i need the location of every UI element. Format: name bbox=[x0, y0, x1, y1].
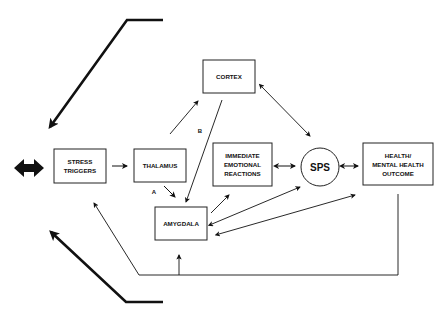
node-health-line-3: OUTCOME bbox=[382, 170, 414, 177]
node-stress-line-2: TRIGGERS bbox=[64, 167, 96, 174]
node-health-line-2: MENTAL HEALTH bbox=[372, 161, 424, 168]
node-amygdala-label: AMYGDALA bbox=[163, 220, 199, 227]
edge-health-feedback-to-stress bbox=[94, 194, 398, 275]
edge-thalamus-to-amygdala bbox=[164, 186, 175, 197]
edge-amygdala-health bbox=[219, 195, 355, 234]
edge-label-a: A bbox=[152, 189, 157, 195]
node-stress-line-1: STRESS bbox=[68, 158, 93, 165]
node-immediate-emotional-reactions: IMMEDIATE EMOTIONAL REACTIONS bbox=[213, 143, 272, 186]
node-cortex: CORTEX bbox=[203, 60, 255, 93]
edge-thalamus-to-cortex bbox=[170, 101, 198, 134]
edge-amygdala-to-immediate bbox=[211, 195, 229, 213]
bottom-cycle-arrow bbox=[51, 232, 163, 302]
node-immediate-line-1: IMMEDIATE bbox=[225, 152, 259, 159]
double-arrow-icon bbox=[14, 159, 44, 177]
edge-label-b: B bbox=[198, 128, 203, 134]
node-immediate-line-2: EMOTIONAL bbox=[224, 161, 261, 168]
top-cycle-arrow bbox=[50, 20, 163, 127]
node-cortex-label: CORTEX bbox=[216, 73, 243, 80]
node-health-line-1: HEALTH/ bbox=[385, 152, 412, 159]
node-health-outcome: HEALTH/ MENTAL HEALTH OUTCOME bbox=[363, 143, 433, 185]
node-sps: SPS bbox=[301, 148, 339, 186]
node-thalamus-label: THALAMUS bbox=[143, 162, 178, 169]
sps-stress-model-diagram: STRESS TRIGGERS THALAMUS CORTEX AMYGDALA… bbox=[0, 0, 448, 317]
node-amygdala: AMYGDALA bbox=[155, 207, 207, 240]
node-thalamus: THALAMUS bbox=[134, 149, 186, 182]
node-sps-label: SPS bbox=[310, 162, 330, 173]
edge-amygdala-sps bbox=[212, 187, 300, 224]
node-immediate-line-3: REACTIONS bbox=[224, 170, 260, 177]
node-stress-triggers: STRESS TRIGGERS bbox=[54, 149, 106, 183]
edge-cortex-sps bbox=[262, 87, 310, 136]
